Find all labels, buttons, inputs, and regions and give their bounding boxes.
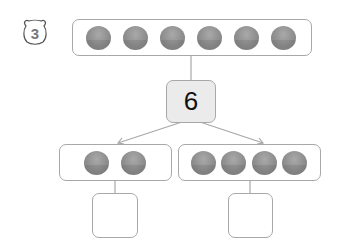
coin [197,26,222,50]
coin [221,151,246,175]
coin [160,26,185,50]
right-answer-box[interactable] [228,193,273,238]
coin [234,26,259,50]
coin [252,151,277,175]
coin [271,26,296,50]
coin [191,151,216,175]
left-answer-box[interactable] [92,193,138,238]
coin [86,26,111,50]
coin [123,26,148,50]
right-coin-group [178,144,321,181]
coin [84,151,109,175]
total-number-box: 6 [166,80,216,123]
left-coin-group [59,144,172,181]
top-coin-group [72,19,312,56]
coin [121,151,146,175]
coin [282,151,307,175]
